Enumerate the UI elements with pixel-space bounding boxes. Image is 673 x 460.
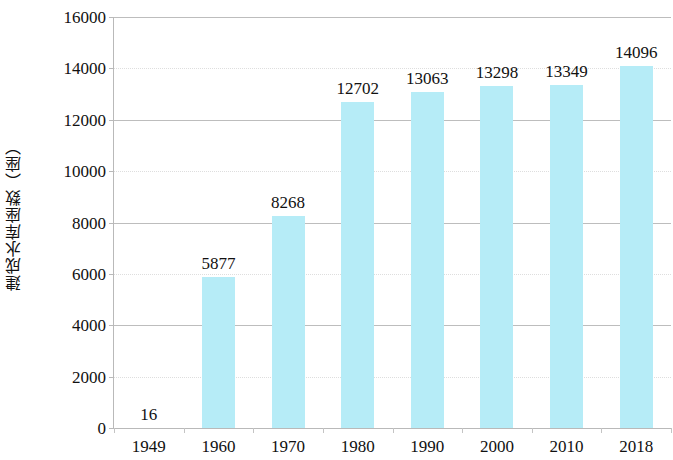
y-axis-tick-label: 0 bbox=[36, 420, 114, 437]
y-axis-tick-label: 10000 bbox=[36, 163, 114, 180]
x-axis-tick-label: 1970 bbox=[271, 438, 305, 455]
gridline bbox=[114, 17, 671, 18]
gridline bbox=[114, 377, 671, 378]
y-axis-title: 建成水库座数（座） bbox=[0, 0, 30, 428]
x-axis-tick-mark bbox=[323, 428, 324, 433]
bar-value-label: 8268 bbox=[271, 194, 305, 211]
bar bbox=[341, 102, 374, 428]
bar-value-label: 13298 bbox=[476, 64, 519, 81]
x-axis-tick-mark bbox=[671, 428, 672, 433]
bar bbox=[272, 216, 305, 428]
bar bbox=[480, 86, 513, 428]
bar-chart: 建成水库座数（座） 020004000600080001000012000140… bbox=[0, 0, 673, 460]
x-axis-tick-mark bbox=[114, 428, 115, 433]
x-axis-tick-label: 2010 bbox=[550, 438, 584, 455]
plot-area: 0200040006000800010000120001400016000161… bbox=[113, 17, 671, 428]
gridline bbox=[114, 223, 671, 224]
y-axis-tick-label: 2000 bbox=[36, 368, 114, 385]
y-axis-tick-label: 6000 bbox=[36, 265, 114, 282]
x-axis-tick-label: 1960 bbox=[201, 438, 235, 455]
y-axis-tick-label: 8000 bbox=[36, 214, 114, 231]
x-axis-tick-mark bbox=[393, 428, 394, 433]
x-axis-tick-label: 1980 bbox=[341, 438, 375, 455]
bar bbox=[620, 66, 653, 428]
x-axis-tick-mark bbox=[601, 428, 602, 433]
gridline bbox=[114, 171, 671, 172]
x-axis-tick-label: 2000 bbox=[480, 438, 514, 455]
y-axis-tick-label: 14000 bbox=[36, 60, 114, 77]
bar-value-label: 13349 bbox=[545, 63, 588, 80]
x-axis-tick-mark bbox=[532, 428, 533, 433]
y-axis-tick-label: 12000 bbox=[36, 111, 114, 128]
x-axis-tick-label: 1990 bbox=[410, 438, 444, 455]
x-axis-tick-mark bbox=[253, 428, 254, 433]
y-axis-title-text: 建成水库座数（座） bbox=[3, 138, 27, 291]
x-axis-tick-mark bbox=[462, 428, 463, 433]
bar-value-label: 16 bbox=[140, 406, 157, 423]
bar bbox=[202, 277, 235, 428]
bar-value-label: 12702 bbox=[336, 80, 379, 97]
bar bbox=[550, 85, 583, 428]
gridline bbox=[114, 274, 671, 275]
y-axis-tick-label: 16000 bbox=[36, 9, 114, 26]
bar bbox=[411, 92, 444, 428]
bar-value-label: 13063 bbox=[406, 70, 449, 87]
x-axis-tick-mark bbox=[184, 428, 185, 433]
y-axis-tick-label: 4000 bbox=[36, 317, 114, 334]
gridline bbox=[114, 120, 671, 121]
x-axis-tick-label: 1949 bbox=[132, 438, 166, 455]
bar-value-label: 14096 bbox=[615, 44, 658, 61]
gridline bbox=[114, 325, 671, 326]
x-axis-tick-label: 2018 bbox=[619, 438, 653, 455]
bar-value-label: 5877 bbox=[201, 255, 235, 272]
